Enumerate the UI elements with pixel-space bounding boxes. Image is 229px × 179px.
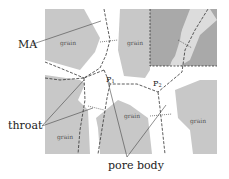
grain-bottom-left [45, 75, 90, 154]
callout-throat: throat [8, 119, 43, 132]
grain-label: grain [60, 39, 76, 47]
callout-ma: MA [18, 38, 38, 51]
pore-network-diagram: grain grain grain grain grain P1 P2 MA t… [0, 0, 229, 179]
grain-label: grain [57, 133, 73, 141]
grain-label: grain [190, 117, 206, 125]
callout-pore-body: pore body [108, 159, 165, 172]
grain-label: grain [127, 39, 143, 47]
grain-label: grain [124, 112, 140, 120]
